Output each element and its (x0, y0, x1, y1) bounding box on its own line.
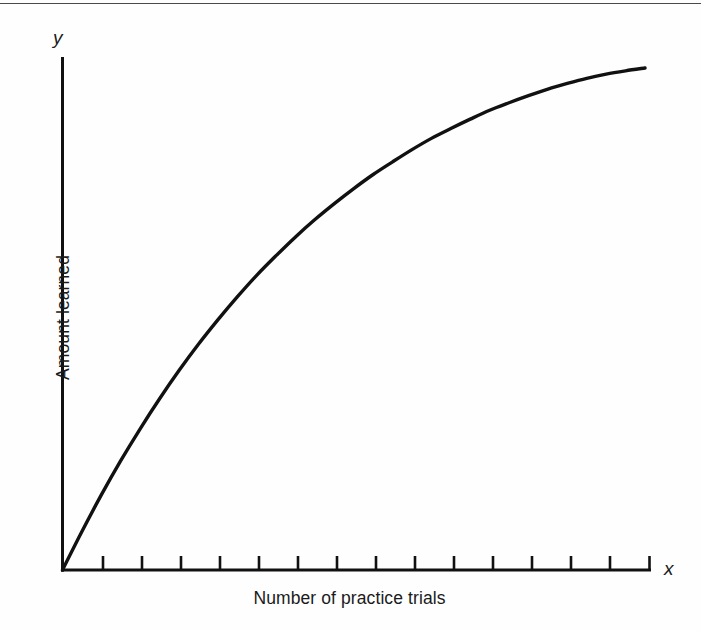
plot-area (0, 0, 701, 631)
learning-curve-line (63, 68, 646, 570)
y-axis-title: Amount learned (53, 218, 74, 418)
x-axis-ticks (103, 556, 650, 570)
y-axis-variable-label: y (53, 27, 63, 49)
x-axis-variable-label: x (664, 558, 674, 580)
learning-curve-figure: y x Amount learned Number of practice tr… (0, 0, 701, 631)
x-axis-title: Number of practice trials (162, 588, 537, 609)
